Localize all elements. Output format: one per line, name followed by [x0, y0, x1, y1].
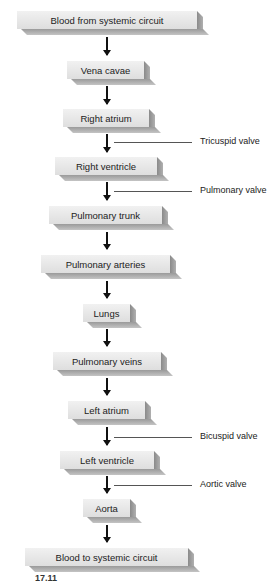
node-right-ventricle: Right ventricle — [55, 157, 157, 175]
pulmonary-valve-leader — [114, 191, 192, 192]
aortic-valve-leader — [114, 485, 192, 486]
node-blood-from-systemic-circuit: Blood from systemic circuit — [17, 11, 197, 29]
node-left-ventricle: Left ventricle — [60, 451, 154, 469]
arrow-down-icon — [106, 329, 108, 346]
arrow-down-icon — [106, 281, 108, 298]
arrow-down-icon — [106, 134, 108, 152]
aortic-valve-label: Aortic valve — [200, 479, 247, 489]
arrow-down-icon — [106, 476, 108, 493]
arrow-down-icon — [106, 232, 108, 249]
figure-number-fragment: 17.11 — [35, 573, 57, 583]
node-pulmonary-veins: Pulmonary veins — [53, 352, 161, 370]
node-pulmonary-trunk: Pulmonary trunk — [49, 206, 162, 224]
node-right-atrium: Right atrium — [63, 109, 149, 127]
node-left-atrium: Left atrium — [68, 401, 145, 419]
tricuspid-valve-label: Tricuspid valve — [200, 136, 260, 146]
arrow-down-icon — [106, 427, 108, 445]
node-vena-cavae: Vena cavae — [67, 61, 144, 79]
node-aorta: Aorta — [83, 499, 130, 517]
arrow-down-icon — [106, 37, 108, 55]
arrow-down-icon — [106, 86, 108, 104]
arrow-down-icon — [106, 182, 108, 200]
node-lungs: Lungs — [83, 304, 130, 322]
arrow-down-icon — [106, 378, 108, 395]
node-pulmonary-arteries: Pulmonary arteries — [41, 255, 170, 273]
bicuspid-valve-label: Bicuspid valve — [200, 431, 258, 441]
bicuspid-valve-leader — [114, 437, 192, 438]
arrow-down-icon — [106, 525, 108, 542]
node-blood-to-systemic-circuit: Blood to systemic circuit — [25, 548, 188, 566]
tricuspid-valve-leader — [114, 142, 192, 143]
pulmonary-valve-label: Pulmonary valve — [200, 185, 267, 195]
